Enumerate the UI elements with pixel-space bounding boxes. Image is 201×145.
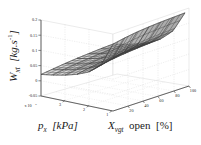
z-axis-label-unit: [kg.s	[7, 40, 19, 62]
x-tick-label: 2	[83, 107, 85, 112]
y-axis-label-sub: vgt	[115, 126, 124, 134]
y-axis-label-unit: [%]	[156, 119, 173, 131]
x-exponent-base: x 10	[25, 103, 32, 108]
x-axis-label: px [kPa]	[38, 119, 78, 134]
z-tick-label: 0.2	[32, 17, 37, 22]
z-tick-label: 0.1	[32, 48, 37, 53]
z-axis-label-unit-close: ]	[7, 30, 19, 34]
y-tick-label: 20	[129, 108, 133, 113]
x-tick-label: 1	[106, 112, 108, 117]
z-axis-label-sub: xt	[14, 67, 22, 72]
z-tick-label: 0.05	[30, 63, 37, 68]
z-axis-label: Wxt [kg.s-1]	[6, 20, 22, 92]
x-exponent-power: 5	[35, 102, 37, 106]
y-tick-label: 80	[175, 93, 179, 98]
y-axis-label-main: X	[108, 119, 115, 131]
z-tick-label: -0.05	[29, 93, 38, 98]
x-axis-label-sub: x	[44, 126, 47, 134]
y-tick-label: 40	[144, 103, 148, 108]
z-tick-labels: 0.2 0.15 0.1 0.05 0 -0.05	[29, 17, 38, 98]
x-axis-exponent: x 10 5	[25, 102, 38, 109]
z-tick-label: 0	[35, 78, 37, 83]
y-tick-label: 100	[190, 88, 196, 93]
y-axis-label-word: open	[129, 119, 150, 131]
x-tick-label: 3	[59, 102, 61, 107]
x-axis-label-unit: [kPa]	[52, 119, 78, 131]
y-tick-label: 60	[159, 98, 163, 103]
y-axis-label: Xvgt open [%]	[108, 119, 172, 134]
z-axis-label-unit-exp: -1	[6, 34, 13, 40]
z-axis-label-main: W	[7, 73, 19, 82]
z-tick-label: 0.15	[30, 33, 37, 38]
